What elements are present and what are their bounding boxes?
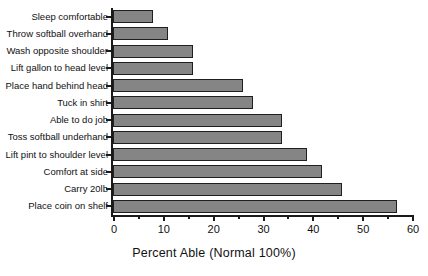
bar-row: [113, 183, 342, 196]
y-axis-tick: [106, 50, 112, 52]
x-axis-tick-label: 20: [199, 223, 229, 236]
category-label: Toss softball underhand: [0, 131, 108, 142]
bar: [113, 183, 342, 196]
x-axis-tick-label: 50: [348, 223, 378, 236]
x-axis-tick-major: [213, 215, 215, 221]
bar: [113, 27, 168, 40]
x-axis-tick-label: 0: [99, 223, 129, 236]
x-axis-tick-label: 30: [249, 223, 279, 236]
bar-row: [113, 45, 193, 58]
category-label: Throw softball overhand: [0, 28, 108, 39]
x-axis-tick-major: [312, 215, 314, 221]
bar: [113, 96, 253, 109]
bar-row: [113, 200, 397, 213]
y-axis-tick: [106, 171, 112, 173]
x-axis-tick-label: 60: [398, 223, 428, 236]
x-axis-tick-label: 40: [298, 223, 328, 236]
x-axis-tick-minor: [138, 215, 140, 219]
x-axis-tick-major: [263, 215, 265, 221]
x-axis-tick-major: [362, 215, 364, 221]
category-axis-labels: Sleep comfortableThrow softball overhand…: [0, 8, 108, 215]
bar-row: [113, 148, 307, 161]
y-axis-tick: [106, 67, 112, 69]
y-axis-tick: [106, 205, 112, 207]
category-label: Sleep comfortable: [0, 11, 108, 22]
category-label: Lift pint to shoulder level: [0, 149, 108, 160]
bar: [113, 45, 193, 58]
plot-area: [113, 8, 412, 215]
x-axis-tick-minor: [287, 215, 289, 219]
bar: [113, 62, 193, 75]
bar-row: [113, 165, 322, 178]
x-axis-tick-major: [163, 215, 165, 221]
y-axis-tick: [106, 33, 112, 35]
bar-row: [113, 27, 168, 40]
y-axis-tick: [106, 188, 112, 190]
x-axis-tick-major: [113, 215, 115, 221]
x-axis-tick-minor: [387, 215, 389, 219]
bar-row: [113, 62, 193, 75]
x-axis-tick-minor: [238, 215, 240, 219]
x-axis-tick-label: 10: [149, 223, 179, 236]
x-axis-title: Percent Able (Normal 100%): [0, 246, 428, 260]
bar-chart: Sleep comfortableThrow softball overhand…: [0, 0, 428, 276]
bar: [113, 200, 397, 213]
y-axis-tick: [106, 119, 112, 121]
x-axis-tick-major: [412, 215, 414, 221]
category-label: Place hand behind head: [0, 80, 108, 91]
category-label: Carry 20lb: [0, 183, 108, 194]
x-axis-tick-minor: [188, 215, 190, 219]
bar-row: [113, 114, 282, 127]
y-axis-tick: [106, 136, 112, 138]
y-axis-tick: [106, 16, 112, 18]
category-label: Place coin on shelf: [0, 200, 108, 211]
bar-row: [113, 79, 243, 92]
bar-row: [113, 131, 282, 144]
category-label: Able to do job: [0, 114, 108, 125]
y-axis-tick: [106, 154, 112, 156]
bar-row: [113, 96, 253, 109]
y-axis-tick: [106, 102, 112, 104]
bar: [113, 148, 307, 161]
category-label: Lift gallon to head level: [0, 62, 108, 73]
bar: [113, 10, 153, 23]
bar: [113, 79, 243, 92]
bar: [113, 165, 322, 178]
bar-row: [113, 10, 153, 23]
bar: [113, 131, 282, 144]
x-axis-tick-minor: [337, 215, 339, 219]
category-label: Tuck in shirt: [0, 97, 108, 108]
category-label: Comfort at side: [0, 166, 108, 177]
y-axis-tick: [106, 85, 112, 87]
bar: [113, 114, 282, 127]
category-label: Wash opposite shoulder: [0, 45, 108, 56]
